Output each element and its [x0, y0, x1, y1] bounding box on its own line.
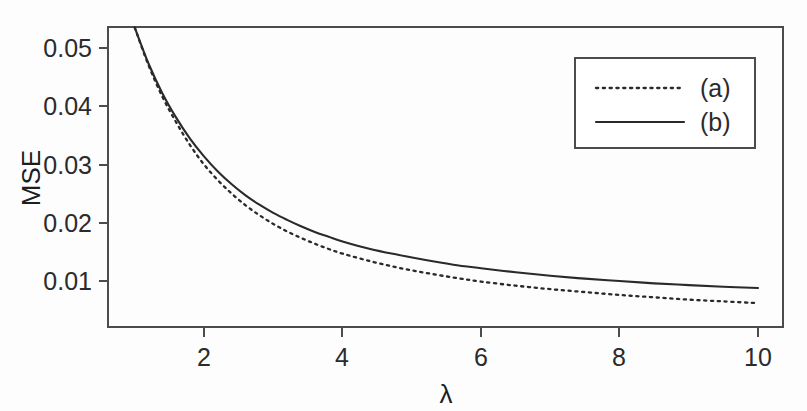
x-tick-label-2: 2 — [197, 343, 211, 371]
x-tick-label-6: 6 — [474, 343, 488, 371]
figure-canvas: 0.05 0.04 0.03 0.02 0.01 2 4 6 8 10 MSE … — [0, 0, 807, 411]
y-tick-label-0.01: 0.01 — [43, 267, 92, 295]
x-axis-title: λ — [440, 379, 453, 409]
y-axis-title: MSE — [16, 150, 46, 206]
x-tick-label-4: 4 — [335, 343, 349, 371]
mse-vs-lambda-chart: 0.05 0.04 0.03 0.02 0.01 2 4 6 8 10 MSE … — [0, 0, 807, 411]
x-tick-label-8: 8 — [612, 343, 626, 371]
y-axis-ticks — [99, 48, 108, 281]
y-tick-label-0.02: 0.02 — [43, 209, 92, 237]
legend-label-a: (a) — [700, 74, 731, 102]
y-tick-label-0.05: 0.05 — [43, 34, 92, 62]
legend-label-b: (b) — [700, 108, 731, 136]
y-axis-tick-labels: 0.05 0.04 0.03 0.02 0.01 — [43, 34, 92, 295]
x-axis-tick-labels: 2 4 6 8 10 — [197, 343, 772, 371]
y-tick-label-0.04: 0.04 — [43, 92, 92, 120]
legend: (a) (b) — [575, 58, 755, 148]
x-axis-ticks — [204, 327, 758, 337]
y-tick-label-0.03: 0.03 — [43, 151, 92, 179]
x-tick-label-10: 10 — [744, 343, 772, 371]
